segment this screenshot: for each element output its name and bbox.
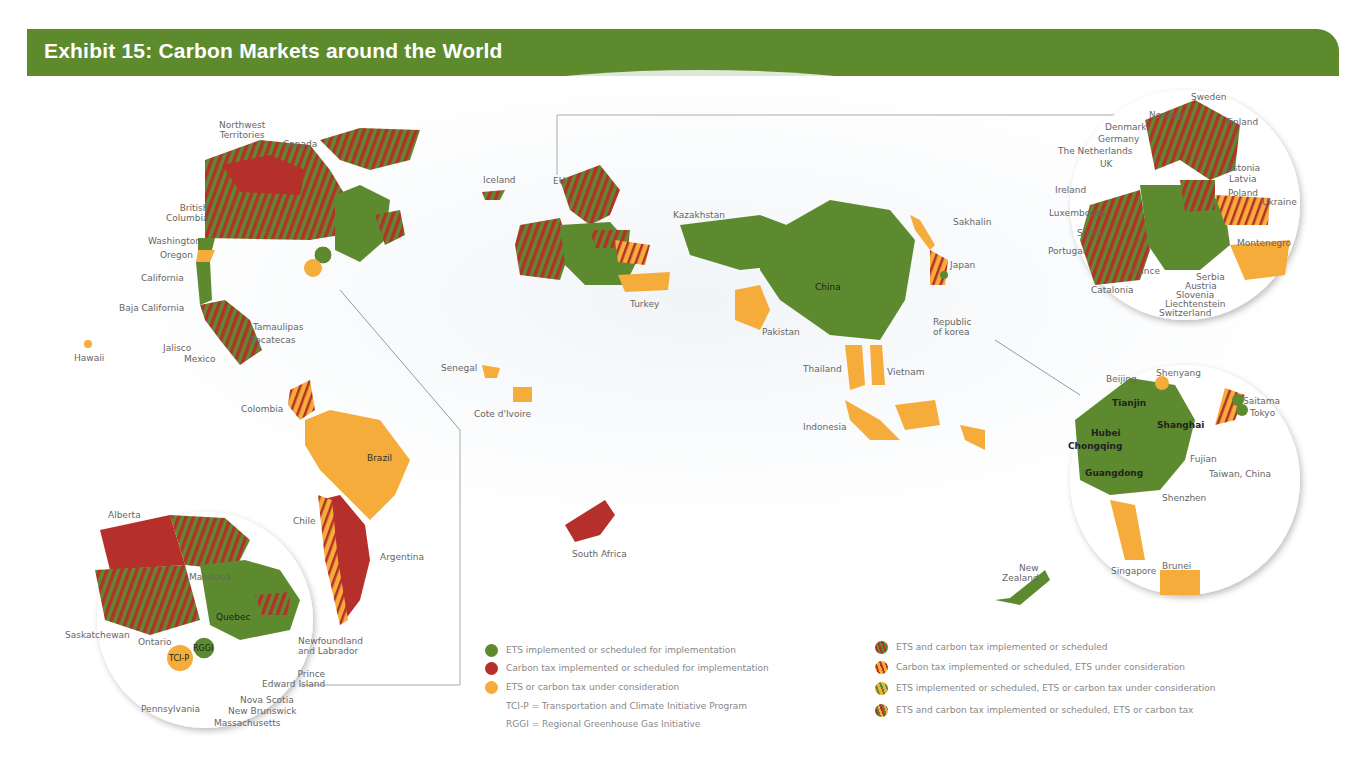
label-beijing: Beijing — [1106, 374, 1137, 384]
label-estonia: Estonia — [1227, 163, 1260, 173]
label-ukraine: Ukraine — [1262, 197, 1297, 207]
label-shenyang: Shenyang — [1156, 368, 1201, 378]
legend-label: RGGI = Regional Greenhouse Gas Initiativ… — [506, 719, 700, 729]
legend-label: ETS implemented or scheduled for impleme… — [506, 645, 736, 655]
label-chile: Chile — [293, 516, 316, 526]
label-cote-divoire: Cote d'Ivoire — [474, 409, 531, 419]
label-argentina: Argentina — [380, 552, 424, 562]
label-prince-edward-island: Prince Edward Island — [262, 669, 325, 689]
label-massachusetts: Massachusetts — [214, 718, 281, 728]
label-ireland: Ireland — [1055, 185, 1086, 195]
label-turkey: Turkey — [630, 299, 659, 309]
label-british-columbia: British Columbia — [166, 203, 209, 223]
label-uk: UK — [1100, 159, 1113, 169]
legend-item-tax-ets-consideration: Carbon tax implemented or scheduled, ETS… — [875, 660, 1185, 674]
label-thailand: Thailand — [803, 364, 842, 374]
label-baja-california: Baja California — [119, 303, 184, 313]
label-canada: Canada — [283, 139, 317, 149]
label-spain: Spain — [1077, 228, 1102, 238]
tri-striped-dot-icon — [875, 704, 888, 717]
red-dot-icon — [485, 662, 498, 675]
label-france: France — [1130, 266, 1160, 276]
label-shanghai: Shanghai — [1157, 420, 1204, 430]
label-new-zealand: New Zealand — [1002, 563, 1039, 583]
label-brazil: Brazil — [367, 453, 392, 463]
legend-label: ETS and carbon tax implemented or schedu… — [896, 705, 1193, 715]
label-mexico: Mexico — [184, 354, 215, 364]
label-alberta: Alberta — [108, 510, 141, 520]
label-portugal: Portugal — [1048, 246, 1085, 256]
green-dot-icon — [485, 644, 498, 657]
label-pakistan: Pakistan — [762, 327, 800, 337]
green-orange-striped-dot-icon — [875, 682, 888, 695]
label-iceland: Iceland — [483, 175, 516, 185]
label-oregon: Oregon — [160, 250, 193, 260]
label-tokyo: Tokyo — [1250, 408, 1275, 418]
label-hubei: Hubei — [1091, 428, 1121, 438]
label-poland: Poland — [1228, 188, 1258, 198]
label-luxembourg: Luxembourg — [1049, 208, 1105, 218]
label-tianjin: Tianjin — [1112, 398, 1146, 408]
label-zacatecas: Zacatecas — [249, 335, 295, 345]
legend-item-carbon-tax: Carbon tax implemented or scheduled for … — [485, 661, 769, 675]
label-brunei: Brunei — [1162, 561, 1191, 571]
label-germany: Germany — [1098, 134, 1139, 144]
label-sakhalin: Sakhalin — [953, 217, 991, 227]
label-montenegro: Montenegro — [1237, 238, 1291, 248]
legend-item-all: ETS and carbon tax implemented or schedu… — [875, 703, 1193, 717]
label-china: China — [815, 282, 841, 292]
label-hawaii: Hawaii — [74, 353, 104, 363]
label-norway: Norway — [1149, 110, 1183, 120]
legend-note-tcip: TCI-P = Transportation and Climate Initi… — [485, 699, 747, 713]
label-denmark: Denmark — [1105, 122, 1146, 132]
label-nova-scotia: Nova Scotia — [240, 695, 294, 705]
red-orange-striped-dot-icon — [875, 661, 888, 674]
orange-dot-icon — [485, 681, 498, 694]
label-tcip: TCI-P — [169, 654, 189, 664]
label-kazakhstan: Kazakhstan — [673, 210, 725, 220]
label-indonesia: Indonesia — [803, 422, 847, 432]
label-rggi: RGGI — [193, 644, 213, 654]
label-northwest-territories: Northwest Territories — [219, 120, 265, 140]
label-new-brunswick: New Brunswick — [228, 706, 296, 716]
label-california: California — [141, 273, 184, 283]
label-finland: Finland — [1226, 117, 1258, 127]
label-switzerland: Switzerland — [1159, 308, 1212, 318]
label-netherlands: The Netherlands — [1058, 146, 1132, 156]
legend-label: ETS and carbon tax implemented or schedu… — [896, 642, 1108, 652]
legend-label: ETS implemented or scheduled, ETS or car… — [896, 683, 1216, 693]
label-saskatchewan: Saskatchewan — [65, 630, 130, 640]
legend-item-ets: ETS implemented or scheduled for impleme… — [485, 643, 736, 657]
label-jalisco: Jalisco — [163, 343, 191, 353]
label-quebec: Quebec — [216, 612, 251, 622]
label-ontario: Ontario — [138, 637, 172, 647]
legend-label: ETS or carbon tax under consideration — [506, 682, 679, 692]
legend-note-rggi: RGGI = Regional Greenhouse Gas Initiativ… — [485, 717, 700, 731]
label-taiwan: Taiwan, China — [1209, 469, 1271, 479]
label-republic-of-korea: Republic of korea — [933, 317, 971, 337]
label-guangdong: Guangdong — [1085, 468, 1143, 478]
label-latvia: Latvia — [1229, 174, 1256, 184]
label-tamaulipas: Tamaulipas — [253, 322, 303, 332]
label-manitoba: Manitoba — [189, 572, 231, 582]
legend-label: Carbon tax implemented or scheduled for … — [506, 663, 769, 673]
label-chongqing: Chongqing — [1068, 441, 1122, 451]
legend-item-under-consideration: ETS or carbon tax under consideration — [485, 680, 679, 694]
label-saitama: Saitama — [1243, 396, 1280, 406]
label-washington: Washington — [148, 236, 201, 246]
label-newfoundland: Newfoundland and Labrador — [298, 636, 363, 656]
legend-label: TCI-P = Transportation and Climate Initi… — [506, 701, 747, 711]
label-singapore: Singapore — [1111, 566, 1156, 576]
label-south-africa: South Africa — [572, 549, 627, 559]
legend-item-ets-consideration: ETS implemented or scheduled, ETS or car… — [875, 681, 1216, 695]
green-red-striped-dot-icon — [875, 641, 888, 654]
label-colombia: Colombia — [241, 404, 283, 414]
label-japan: Japan — [950, 260, 975, 270]
label-eu: EU — [553, 176, 565, 186]
legend-label: Carbon tax implemented or scheduled, ETS… — [896, 662, 1185, 672]
label-pennsylvania: Pennsylvania — [141, 704, 200, 714]
label-shenzhen: Shenzhen — [1162, 493, 1206, 503]
label-senegal: Senegal — [441, 363, 477, 373]
label-vietnam: Vietnam — [887, 367, 925, 377]
label-fujian: Fujian — [1190, 454, 1217, 464]
